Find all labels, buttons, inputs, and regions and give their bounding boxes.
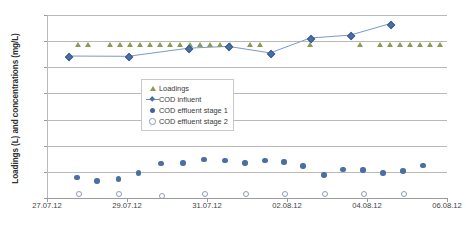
data-point <box>75 42 81 47</box>
data-point <box>400 168 405 173</box>
data-point <box>257 42 263 47</box>
data-point <box>420 163 425 168</box>
triangle-marker-icon <box>146 86 159 91</box>
legend-item: COD influent <box>146 94 228 105</box>
data-point <box>387 42 393 47</box>
data-point <box>437 42 443 47</box>
data-point <box>167 42 173 47</box>
data-point <box>137 42 143 47</box>
x-axis-tick-label: 29.07.12 <box>99 201 155 210</box>
data-point <box>300 163 305 168</box>
data-point <box>380 170 385 175</box>
influent-line-path <box>68 24 390 57</box>
x-axis-tick-label: 27.07.12 <box>19 201 75 210</box>
legend-item-label: Loadings <box>159 84 189 93</box>
x-axis-tick-mark <box>207 198 208 202</box>
data-point <box>177 42 183 47</box>
data-point <box>417 42 423 47</box>
data-point <box>85 42 91 47</box>
x-axis-tick-mark <box>367 198 368 202</box>
data-point <box>222 158 227 163</box>
x-axis-tick-mark <box>47 198 48 202</box>
data-point <box>201 157 206 162</box>
data-point <box>247 42 253 47</box>
data-point <box>322 191 328 197</box>
x-axis-tick-mark <box>287 198 288 202</box>
x-axis-tick-label: 02.08.12 <box>259 201 315 210</box>
data-point <box>157 42 163 47</box>
chart-legend: LoadingsCOD influentCOD effluent stage 1… <box>141 79 234 131</box>
data-point <box>180 160 185 165</box>
data-point <box>117 42 123 47</box>
legend-item-label: COD effluent stage 2 <box>159 117 228 126</box>
data-point <box>207 42 213 47</box>
data-point <box>116 176 121 181</box>
data-point <box>243 191 249 197</box>
x-axis-line <box>47 198 447 199</box>
x-axis-tick-label: 31.07.12 <box>179 201 235 210</box>
open-circle-marker-icon <box>146 118 159 125</box>
data-point <box>242 160 247 165</box>
data-point <box>377 42 383 47</box>
legend-item-label: COD effluent stage 1 <box>159 106 228 115</box>
data-point <box>340 167 345 172</box>
filled-circle-glyph <box>150 108 155 113</box>
open-circle-glyph <box>149 118 156 125</box>
triangle-glyph <box>150 86 156 91</box>
data-point <box>74 175 79 180</box>
data-point <box>360 167 365 172</box>
data-point <box>281 159 286 164</box>
data-point <box>127 42 133 47</box>
x-axis-tick-mark <box>447 198 448 202</box>
data-point <box>107 42 113 47</box>
x-axis-tick-mark <box>127 198 128 202</box>
data-point <box>217 42 223 47</box>
data-point <box>136 170 141 175</box>
diamond-glyph-wrap <box>146 96 159 103</box>
data-point <box>407 42 413 47</box>
data-point <box>197 42 203 47</box>
data-point <box>262 158 267 163</box>
data-point <box>401 191 407 197</box>
legend-item-label: COD influent <box>159 95 201 104</box>
data-point <box>147 42 153 47</box>
x-axis-tick-label: 04.08.12 <box>339 201 395 210</box>
data-point <box>357 42 363 47</box>
diamond-glyph <box>149 96 155 102</box>
legend-item: Loadings <box>146 83 228 94</box>
diamond-line-marker-icon <box>146 96 159 103</box>
plot-area <box>47 15 447 198</box>
data-point <box>321 172 326 177</box>
data-point <box>94 178 99 183</box>
filled-circle-marker-icon <box>146 108 159 113</box>
data-point <box>427 42 433 47</box>
legend-item: COD effluent stage 2 <box>146 116 228 127</box>
data-point <box>397 42 403 47</box>
x-axis-tick-label: 06.08.12 <box>419 201 466 210</box>
legend-item: COD effluent stage 1 <box>146 105 228 116</box>
